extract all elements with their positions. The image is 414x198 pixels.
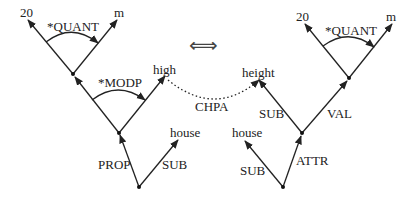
chpa-label: CHPA bbox=[195, 99, 229, 114]
right-label-val: VAL bbox=[327, 106, 352, 121]
chpa-link bbox=[168, 80, 259, 99]
right-node-height: height bbox=[242, 65, 275, 80]
left-upper-node bbox=[71, 72, 75, 76]
right-node-house: house bbox=[232, 125, 263, 140]
right-node-m: m bbox=[386, 9, 396, 24]
left-label-quant: *QUANT bbox=[47, 19, 99, 34]
right-label-sub-lower: SUB bbox=[240, 163, 266, 178]
left-label-sub: SUB bbox=[162, 157, 188, 172]
left-node-high: high bbox=[153, 62, 177, 77]
right-label-quant: *QUANT bbox=[325, 23, 377, 38]
right-middle-node bbox=[300, 131, 304, 135]
left-middle-node bbox=[117, 131, 121, 135]
right-label-sub-upper: SUB bbox=[259, 106, 285, 121]
right-graph: 20 m *QUANT height SUB VAL house SUB ATT… bbox=[232, 9, 396, 189]
left-node-20: 20 bbox=[20, 5, 33, 20]
left-label-prop: PROP bbox=[98, 157, 131, 172]
left-graph: 20 m *QUANT *MODP high house PROP SUB bbox=[20, 5, 201, 189]
left-node-m: m bbox=[114, 5, 124, 20]
right-node-20: 20 bbox=[296, 9, 309, 24]
left-node-house: house bbox=[170, 125, 201, 140]
left-root-node bbox=[137, 185, 141, 189]
right-upper-node bbox=[347, 76, 351, 80]
semantic-graph-diagram: 20 m *QUANT *MODP high house PROP SUB ⟺ … bbox=[0, 0, 414, 198]
left-label-modp: *MODP bbox=[98, 75, 142, 90]
equivalence-arrow-icon: ⟺ bbox=[189, 33, 218, 57]
right-root-node bbox=[281, 185, 285, 189]
left-arc-modp bbox=[92, 90, 145, 100]
right-label-attr: ATTR bbox=[296, 153, 329, 168]
right-arc-quant bbox=[323, 37, 374, 47]
